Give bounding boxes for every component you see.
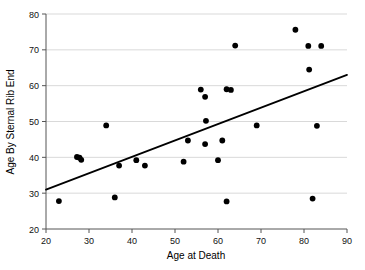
data-points-group [56,27,324,204]
x-tick-label: 20 [41,236,51,246]
y-axis-title: Age By Sternal Rib End [5,69,16,174]
x-tick-label: 90 [342,236,352,246]
y-tick-labels-group: 20304050607080 [29,10,39,235]
data-point [181,159,187,165]
data-point [103,123,109,129]
y-tick-label: 60 [29,81,39,91]
y-tick-label: 30 [29,189,39,199]
x-tick-labels-group: 2030405060708090 [41,236,352,246]
data-point [306,67,312,73]
data-point [305,43,311,49]
data-point [202,141,208,147]
data-point [254,123,260,129]
data-point [228,87,234,93]
data-point [116,163,122,169]
y-tick-label: 50 [29,117,39,127]
data-point [78,157,84,163]
x-tick-label: 80 [299,236,309,246]
regression-line-group [46,75,347,190]
chart-canvas: 2030405060708090 20304050607080 Age at D… [0,0,365,270]
data-point [56,198,62,204]
data-point [133,157,139,163]
x-tick-label: 70 [256,236,266,246]
x-tick-label: 40 [127,236,137,246]
data-point [314,123,320,129]
x-tick-label: 60 [213,236,223,246]
x-tick-label: 50 [170,236,180,246]
data-point [203,118,209,124]
data-point [215,157,221,163]
data-point [219,138,225,144]
y-tick-label: 80 [29,10,39,20]
y-tick-label: 70 [29,45,39,55]
data-point [310,196,316,202]
data-point [318,43,324,49]
gridlines-group [46,14,347,193]
x-axis-title: Age at Death [167,250,225,261]
data-point [112,195,118,201]
data-point [185,138,191,144]
data-point [232,43,238,49]
y-tick-label: 40 [29,153,39,163]
scatter-plot-figure: 2030405060708090 20304050607080 Age at D… [0,0,365,270]
data-point [198,87,204,93]
data-point [202,94,208,100]
y-tick-label: 20 [29,225,39,235]
regression-line [46,75,347,190]
x-tick-label: 30 [84,236,94,246]
data-point [293,27,299,33]
data-point [224,199,230,205]
data-point [142,163,148,169]
x-tick-marks-group [46,229,347,233]
y-tick-marks-group [42,14,46,229]
